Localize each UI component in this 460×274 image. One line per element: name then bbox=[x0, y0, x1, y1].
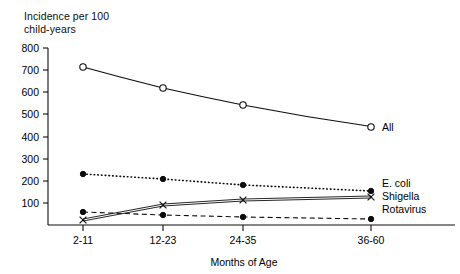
series-rotavirus: Rotavirus bbox=[80, 203, 426, 222]
x-axis-ticks bbox=[83, 225, 371, 231]
series-rotavirus-point-0 bbox=[80, 209, 85, 214]
y-tick-label-100: 100 bbox=[21, 197, 39, 209]
series-ecoli-point-2 bbox=[240, 182, 245, 187]
series-all-label: All bbox=[382, 121, 394, 133]
y-axis-ticks bbox=[43, 48, 48, 203]
series-shigella-point-0 bbox=[80, 217, 87, 224]
series-shigella-point-3 bbox=[368, 194, 375, 201]
series-all-line bbox=[83, 67, 368, 126]
series-all-point-0 bbox=[80, 64, 86, 70]
y-tick-label-500: 500 bbox=[21, 108, 39, 120]
series-ecoli-line bbox=[83, 174, 371, 191]
series-all: All bbox=[80, 64, 394, 133]
series-shigella-line-lower bbox=[83, 198, 371, 221]
x-tick-label-24-35: 24-35 bbox=[230, 234, 257, 246]
y-tick-label-300: 300 bbox=[21, 153, 39, 165]
series-shigella-label: Shigella bbox=[382, 190, 420, 202]
x-tick-label-36-60: 36-60 bbox=[358, 234, 385, 246]
series-rotavirus-point-2 bbox=[240, 214, 245, 219]
series-shigella-point-2 bbox=[240, 197, 247, 204]
series-ecoli-point-0 bbox=[80, 171, 85, 176]
y-tick-label-400: 400 bbox=[21, 131, 39, 143]
series-ecoli-point-3 bbox=[368, 188, 373, 193]
series-ecoli-label: E. coli bbox=[382, 177, 411, 189]
series-shigella-point-1 bbox=[160, 202, 167, 209]
y-tick-label-800: 800 bbox=[21, 42, 39, 54]
series-all-point-2 bbox=[240, 102, 246, 108]
x-axis-title: Months of Age bbox=[210, 256, 277, 268]
y-tick-label-200: 200 bbox=[21, 175, 39, 187]
y-tick-label-700: 700 bbox=[21, 64, 39, 76]
y-tick-label-600: 600 bbox=[21, 86, 39, 98]
series-all-point-1 bbox=[160, 85, 166, 91]
series-rotavirus-point-1 bbox=[160, 212, 165, 217]
series-ecoli: E. coli bbox=[80, 171, 410, 193]
series-ecoli-point-1 bbox=[160, 176, 165, 181]
incidence-line-chart: Incidence per 100 child-years 800 700 60… bbox=[0, 0, 460, 274]
x-tick-label-2-11: 2-11 bbox=[73, 234, 93, 246]
chart-plot-area: 800 700 600 500 400 300 200 100 2-11 12-… bbox=[0, 0, 460, 274]
series-rotavirus-point-3 bbox=[368, 216, 373, 221]
series-all-point-3 bbox=[368, 124, 374, 130]
series-rotavirus-label: Rotavirus bbox=[382, 203, 426, 215]
x-tick-label-12-23: 12-23 bbox=[150, 234, 177, 246]
